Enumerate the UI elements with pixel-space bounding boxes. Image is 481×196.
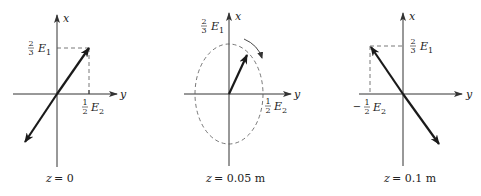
svg-text:z: z (45, 172, 52, 185)
svg-text:2: 2 (410, 37, 415, 46)
caption: z = 0.1 m (383, 172, 437, 185)
svg-text:E: E (210, 20, 219, 33)
svg-text:3: 3 (28, 48, 33, 57)
svg-text:2: 2 (99, 107, 104, 116)
svg-text:1: 1 (265, 97, 270, 106)
x-axis-label: x (63, 12, 70, 25)
caption: z = 0.05 m (205, 172, 266, 185)
svg-text:3: 3 (410, 46, 415, 55)
field-vector-arrow (229, 55, 247, 94)
svg-text:= 0: = 0 (54, 172, 74, 185)
svg-text:= 0.1 m: = 0.1 m (392, 172, 437, 185)
svg-text:1: 1 (46, 48, 51, 57)
svg-text:z: z (205, 172, 212, 185)
y-tick-label: 1 2 E 2 (265, 97, 287, 115)
x-axis-label: x (409, 10, 416, 23)
svg-text:1: 1 (428, 46, 433, 55)
svg-text:E: E (37, 42, 46, 55)
y-tick-label: − 1 2 E 2 (353, 98, 386, 116)
panel-z01: x y 2 3 E 1 − 1 2 E 2 z = 0.1 m (353, 10, 473, 185)
svg-text:E: E (90, 101, 99, 114)
panel-z0: x y 2 3 E 1 1 2 E 2 z = 0 (13, 12, 127, 185)
field-vector-arrow-opposite (403, 94, 439, 144)
field-vector-arrow-opposite (25, 94, 57, 142)
svg-text:3: 3 (201, 26, 206, 35)
svg-text:2: 2 (28, 39, 33, 48)
x-tick-label: 2 3 E 1 (410, 37, 433, 55)
x-axis-label: x (235, 10, 242, 23)
svg-text:z: z (383, 172, 390, 185)
svg-text:1: 1 (82, 98, 87, 107)
x-tick-label: 2 3 E 1 (201, 17, 224, 35)
svg-text:2: 2 (201, 17, 206, 26)
svg-text:2: 2 (282, 106, 287, 115)
svg-text:2: 2 (381, 107, 386, 116)
caption: z = 0 (45, 172, 74, 185)
svg-text:E: E (273, 100, 282, 113)
svg-text:2: 2 (265, 106, 270, 115)
svg-text:1: 1 (219, 26, 224, 35)
y-axis-label: y (465, 88, 473, 101)
y-axis-label: y (119, 88, 127, 101)
svg-text:E: E (419, 40, 428, 53)
svg-text:2: 2 (82, 107, 87, 116)
y-tick-label: 1 2 E 2 (82, 98, 104, 116)
svg-text:= 0.05 m: = 0.05 m (214, 172, 266, 185)
svg-text:−: − (353, 101, 361, 112)
svg-text:E: E (372, 101, 381, 114)
panel-z005: x y 2 3 E 1 1 2 E 2 z = 0.05 m (184, 10, 301, 185)
field-vector-arrow (371, 47, 403, 94)
field-vector-arrow (57, 48, 89, 94)
svg-text:1: 1 (364, 98, 369, 107)
polarization-diagram: x y 2 3 E 1 1 2 E 2 z = 0 x y (0, 0, 481, 196)
y-axis-label: y (293, 88, 301, 101)
svg-text:2: 2 (364, 107, 369, 116)
x-tick-label: 2 3 E 1 (28, 39, 51, 57)
